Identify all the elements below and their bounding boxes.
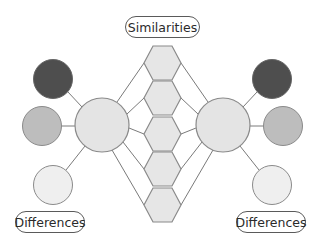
similarity-hexagons	[144, 46, 181, 222]
right-difference-circle-dark	[253, 60, 292, 99]
main-topic-circle-right	[196, 98, 250, 152]
left-difference-circle-mid	[23, 107, 62, 146]
main-topic-circle-left	[75, 98, 129, 152]
similarity-hexagon-3	[144, 117, 181, 151]
similarity-hexagon-1	[144, 46, 181, 80]
similarities-label: Similarities	[125, 16, 200, 38]
differences-label-left: Differences	[15, 211, 85, 233]
similarity-hexagon-5	[144, 188, 181, 222]
similarity-hexagon-2	[144, 81, 181, 115]
left-difference-circle-dark	[34, 60, 73, 99]
left-difference-circle-light	[34, 166, 73, 205]
similarity-hexagon-4	[144, 152, 181, 186]
differences-label-right: Differences	[236, 211, 306, 233]
right-difference-circle-light	[253, 166, 292, 205]
right-difference-circle-mid	[264, 107, 303, 146]
